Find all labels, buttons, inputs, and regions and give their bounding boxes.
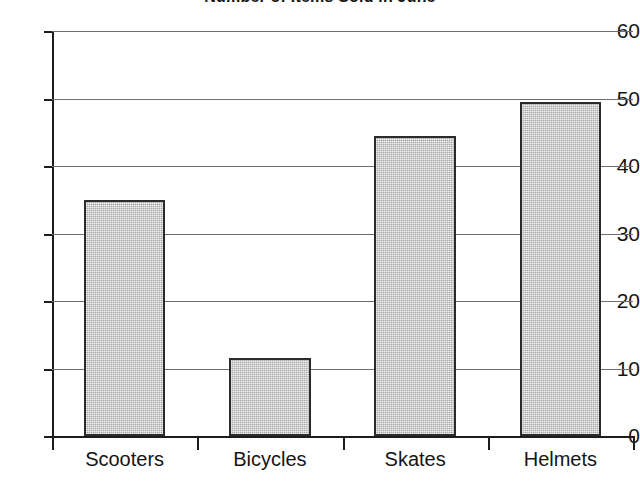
- gridline-60: [52, 31, 633, 32]
- bar-helmets: [520, 102, 601, 436]
- x-axis-label-scooters: Scooters: [52, 448, 197, 470]
- chart-title: Number of Items Sold in June: [0, 0, 640, 6]
- bar-skates: [374, 136, 455, 436]
- bar-bicycles: [229, 358, 310, 436]
- x-axis-label-bicycles: Bicycles: [197, 448, 342, 470]
- bar-scooters: [84, 200, 165, 436]
- x-axis-label-skates: Skates: [343, 448, 488, 470]
- plot-area: [52, 31, 633, 436]
- gridline-50: [52, 99, 633, 100]
- x-axis-label-helmets: Helmets: [488, 448, 633, 470]
- x-tick-4: [633, 436, 635, 450]
